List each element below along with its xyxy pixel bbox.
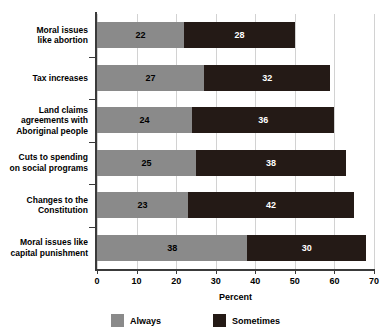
x-tick [374,269,375,274]
bar-value-label: 30 [247,243,366,252]
bar-segment-always: 23 [97,192,188,218]
x-tick-label: 60 [319,276,349,286]
bar-segment-always: 25 [97,150,196,176]
bar-value-label: 27 [97,73,204,82]
bar-row: 2436 [0,107,391,133]
legend-label: Sometimes [232,316,280,326]
bar-value-label: 42 [188,201,354,210]
x-tick [295,269,296,274]
plot-area [97,14,374,269]
bar-row: 2732 [0,65,391,91]
category-tick [89,57,97,58]
gridline-30 [216,14,217,269]
x-tick [216,269,217,274]
bar-value-label: 38 [196,158,346,167]
bar-row: 2228 [0,22,391,48]
bar-segment-always: 22 [97,22,184,48]
bar-segment-always: 27 [97,65,204,91]
bar-segment-sometimes: 38 [196,150,346,176]
bar-value-label: 36 [192,116,334,125]
bar-value-label: 25 [97,158,196,167]
bar-segment-sometimes: 42 [188,192,354,218]
gridline-10 [137,14,138,269]
x-tick [334,269,335,274]
chart-legend: AlwaysSometimes [0,314,391,327]
legend-item-always[interactable]: Always [111,314,161,327]
x-tick [97,269,98,274]
bar-value-label: 38 [97,243,247,252]
x-tick-label: 70 [359,276,389,286]
gridline-50 [295,14,296,269]
bar-value-label: 32 [204,73,331,82]
category-tick [89,142,97,143]
x-tick-label: 10 [122,276,152,286]
gridline-0 [97,14,98,269]
category-tick [89,227,97,228]
bar-value-label: 24 [97,116,192,125]
bar-value-label: 28 [184,31,295,40]
stacked-bar-chart: Moral issueslike abortionTax increasesLa… [0,0,391,336]
gridline-20 [176,14,177,269]
x-tick-label: 0 [82,276,112,286]
x-axis-title: Percent [97,292,374,302]
bar-segment-sometimes: 36 [192,107,334,133]
gridline-40 [255,14,256,269]
gridline-70 [374,14,375,269]
bar-row: 2538 [0,150,391,176]
legend-swatch-icon [111,314,124,327]
legend-item-sometimes[interactable]: Sometimes [213,314,280,327]
bar-value-label: 22 [97,31,184,40]
bar-value-label: 23 [97,201,188,210]
bar-segment-sometimes: 28 [184,22,295,48]
bar-segment-sometimes: 32 [204,65,331,91]
x-tick-label: 40 [240,276,270,286]
category-tick [89,184,97,185]
bar-row: 3830 [0,235,391,261]
gridline-60 [334,14,335,269]
bar-segment-sometimes: 30 [247,235,366,261]
x-tick [137,269,138,274]
legend-swatch-icon [213,314,226,327]
x-tick-label: 30 [201,276,231,286]
category-tick [89,99,97,100]
legend-label: Always [130,316,161,326]
bar-segment-always: 24 [97,107,192,133]
x-tick [255,269,256,274]
x-tick-label: 50 [280,276,310,286]
x-tick [176,269,177,274]
x-tick-label: 20 [161,276,191,286]
bar-segment-always: 38 [97,235,247,261]
bar-row: 2342 [0,192,391,218]
